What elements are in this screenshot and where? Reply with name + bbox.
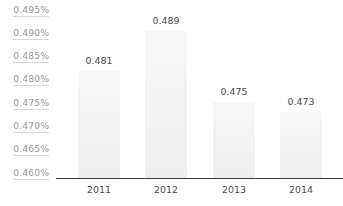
y-axis-tick: 0.485%	[0, 50, 49, 63]
y-axis-tick: 0.465%	[0, 143, 49, 156]
plot-area: 0.481 0.489 0.475 0.473	[56, 0, 343, 178]
x-axis-tick-2011: 2011	[69, 184, 129, 195]
bar[interactable]	[280, 112, 322, 178]
bar-value-label: 0.489	[136, 15, 196, 26]
y-axis-tick-label: 0.470%	[13, 120, 49, 133]
y-axis-tick: 0.495%	[0, 4, 49, 17]
bar-value-label: 0.481	[69, 55, 129, 66]
y-axis: 0.495% 0.490% 0.485% 0.480% 0.475% 0.470…	[0, 0, 56, 182]
y-axis-tick-label: 0.480%	[13, 73, 49, 86]
x-axis-line	[56, 178, 343, 179]
x-axis-tick-2013: 2013	[204, 184, 264, 195]
bar-value-label: 0.473	[271, 96, 331, 107]
y-axis-tick: 0.460%	[0, 167, 49, 180]
y-axis-tick-label: 0.475%	[13, 97, 49, 110]
x-axis-tick-2012: 2012	[136, 184, 196, 195]
bar[interactable]	[213, 102, 255, 178]
y-axis-tick-label: 0.485%	[13, 50, 49, 63]
x-axis-tick-2014: 2014	[271, 184, 331, 195]
y-axis-tick-label: 0.460%	[13, 167, 49, 180]
bar-chart: 0.495% 0.490% 0.485% 0.480% 0.475% 0.470…	[0, 0, 343, 206]
y-axis-tick: 0.490%	[0, 27, 49, 40]
y-axis-tick-label: 0.465%	[13, 143, 49, 156]
bar[interactable]	[78, 71, 120, 178]
y-axis-tick-label: 0.490%	[13, 27, 49, 40]
bar[interactable]	[145, 31, 187, 179]
y-axis-tick: 0.470%	[0, 120, 49, 133]
y-axis-tick: 0.475%	[0, 97, 49, 110]
y-axis-tick-label: 0.495%	[13, 4, 49, 17]
bar-value-label: 0.475	[204, 86, 264, 97]
x-axis: 2011 2012 2013 2014	[56, 181, 343, 203]
y-axis-tick: 0.480%	[0, 73, 49, 86]
